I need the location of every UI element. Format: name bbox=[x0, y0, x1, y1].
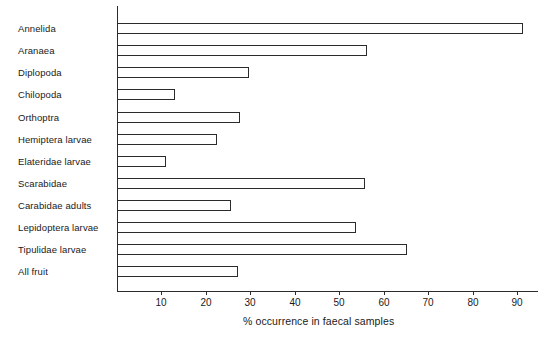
bar-all-fruit bbox=[117, 266, 238, 277]
x-axis-tick bbox=[517, 291, 518, 295]
category-label: Carabidae adults bbox=[18, 201, 91, 211]
category-label: All fruit bbox=[18, 267, 48, 277]
x-axis-tick bbox=[161, 291, 162, 295]
bar-chart: Annelida Aranaea Diplopoda Chilopoda Ort… bbox=[0, 0, 555, 344]
bar-aranaea bbox=[117, 45, 367, 56]
category-label: Orthoptra bbox=[18, 113, 59, 123]
x-axis-tick bbox=[428, 291, 429, 295]
bar-scarabidae bbox=[117, 178, 365, 189]
x-tick-label: 60 bbox=[369, 297, 399, 308]
x-tick-label: 20 bbox=[191, 297, 221, 308]
x-tick-label: 40 bbox=[280, 297, 310, 308]
category-label: Annelida bbox=[18, 24, 56, 34]
x-axis-tick bbox=[206, 291, 207, 295]
x-tick-label: 80 bbox=[458, 297, 488, 308]
x-axis-line bbox=[117, 291, 538, 292]
x-tick-label: 50 bbox=[324, 297, 354, 308]
bar-tipulidae-larvae bbox=[117, 244, 407, 255]
x-axis-title: % occurrence in faecal samples bbox=[243, 315, 394, 327]
bar-carabidae-adults bbox=[117, 200, 231, 211]
category-label: Scarabidae bbox=[18, 179, 67, 189]
bar-lepidoptera-larvae bbox=[117, 222, 356, 233]
category-label: Aranaea bbox=[18, 46, 55, 56]
x-tick-label: 70 bbox=[413, 297, 443, 308]
category-label: Hemiptera larvae bbox=[18, 135, 92, 145]
x-tick-label: 10 bbox=[146, 297, 176, 308]
category-label: Tipulidae larvae bbox=[18, 245, 86, 255]
x-tick-label: 90 bbox=[502, 297, 532, 308]
category-label: Elateridae larvae bbox=[18, 157, 91, 167]
bar-elateridae-larvae bbox=[117, 156, 166, 167]
x-axis-tick bbox=[339, 291, 340, 295]
bar-diplopoda bbox=[117, 67, 249, 78]
category-label: Diplopoda bbox=[18, 68, 62, 78]
x-axis-tick bbox=[295, 291, 296, 295]
category-label: Chilopoda bbox=[18, 90, 62, 100]
x-tick-label: 30 bbox=[235, 297, 265, 308]
category-label: Lepidoptera larvae bbox=[18, 223, 99, 233]
x-axis-tick bbox=[473, 291, 474, 295]
x-axis-tick bbox=[250, 291, 251, 295]
bar-annelida bbox=[117, 23, 523, 34]
bar-hemiptera-larvae bbox=[117, 134, 217, 145]
bar-chilopoda bbox=[117, 89, 175, 100]
bar-orthoptra bbox=[117, 112, 240, 123]
x-axis-tick bbox=[384, 291, 385, 295]
